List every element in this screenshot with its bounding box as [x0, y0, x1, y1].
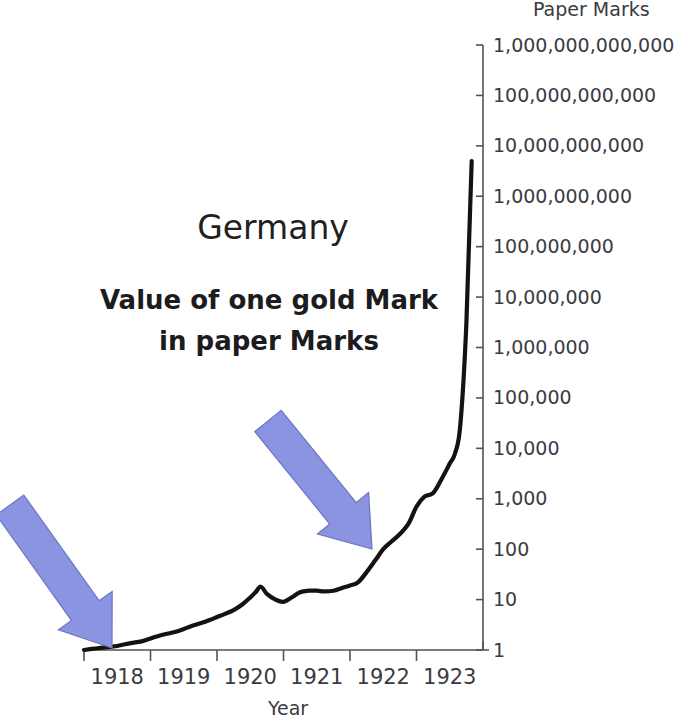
x-axis-tick-label: 1922 [357, 665, 410, 689]
y-axis-tick-label: 100,000 [493, 386, 572, 408]
y-axis-tick-label: 100 [493, 538, 529, 560]
x-axis-tick-label: 1923 [423, 665, 476, 689]
y-axis-tick-label: 1,000,000,000 [493, 185, 632, 207]
chart-subtitle-line-1: Value of one gold Mark [100, 285, 439, 315]
y-axis-tick-label: 10,000,000,000 [493, 134, 644, 156]
y-axis-tick-label: 1,000,000,000,000 [493, 34, 674, 56]
x-axis-tick-label: 1918 [91, 665, 144, 689]
y-axis-tick-label: 1 [493, 639, 505, 661]
chart-canvas: Paper Marks 1,000,000,000,000100,000,000… [0, 0, 689, 722]
y-axis-tick-label: 10 [493, 588, 517, 610]
y-axis-tick-label: 1,000 [493, 487, 547, 509]
y-axis-tick-label: 10,000,000 [493, 286, 602, 308]
x-axis-tick-label: 1920 [224, 665, 277, 689]
hyperinflation-chart: Paper Marks 1,000,000,000,000100,000,000… [0, 0, 689, 722]
chart-title: Germany [197, 208, 349, 247]
x-axis-tick-label: 1919 [157, 665, 210, 689]
chart-subtitle-line-2: in paper Marks [159, 326, 379, 356]
y-axis-tick-label: 1,000,000 [493, 336, 590, 358]
y-axis-title: Paper Marks [533, 0, 650, 20]
x-axis-title: Year [267, 697, 308, 719]
y-axis-tick-label: 10,000 [493, 437, 559, 459]
y-axis-tick-label: 100,000,000,000 [493, 84, 656, 106]
x-axis-tick-label: 1921 [290, 665, 343, 689]
y-axis-tick-label: 100,000,000 [493, 235, 614, 257]
